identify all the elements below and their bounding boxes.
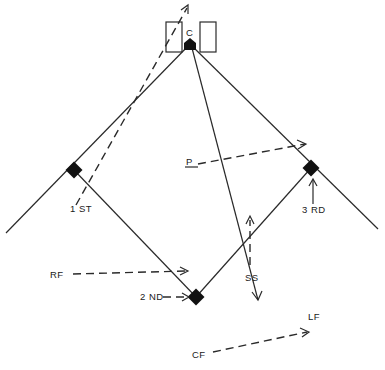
left-batters-box [166, 22, 182, 52]
pitcher-label: P [186, 156, 193, 167]
first-base-label: 1 ST [70, 203, 92, 214]
third-base-label: 3 RD [302, 204, 326, 215]
home-plate [184, 38, 196, 50]
second-base-label: 2 ND [140, 291, 164, 302]
catcher-to-leftfield-line [192, 48, 258, 300]
pitcher-movement [198, 144, 305, 164]
rightfield-label: RF [50, 269, 64, 280]
third-base-foul-line [190, 44, 378, 229]
baseball-field-diagram: C 1 ST 3 RD 2 ND P RF SS LF CF [0, 0, 385, 370]
catcher-label: C [186, 27, 193, 38]
right-batters-box [200, 22, 216, 52]
centerfield-label: CF [192, 349, 206, 360]
first-to-second-path [74, 170, 196, 297]
rightfield-movement [73, 271, 186, 274]
centerfield-movement [213, 332, 307, 352]
first-base-foul-line [6, 44, 190, 233]
shortstop-label: SS [245, 272, 259, 283]
first-baseman-movement [76, 8, 187, 205]
leftfield-label: LF [308, 311, 320, 322]
